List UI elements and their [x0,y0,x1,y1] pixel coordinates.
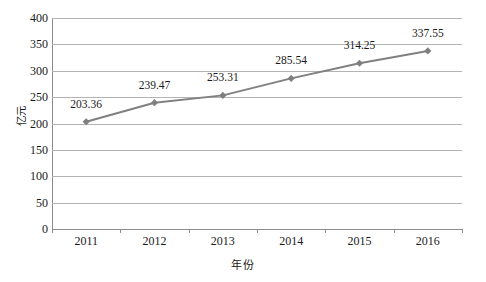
data-label-2014: 285.54 [275,54,307,66]
data-label-2011: 203.36 [70,98,102,110]
data-point-marker-2011 [83,118,90,125]
data-point-marker-2016 [424,47,431,54]
data-point-marker-2015 [356,60,363,67]
data-label-2012: 239.47 [139,79,171,91]
data-point-marker-2012 [151,99,158,106]
data-point-marker-2014 [288,75,295,82]
series-line [86,51,428,122]
line-chart: 亿元 400350300250200150100500 201120122013… [0,0,486,282]
series-line-group [0,0,486,282]
data-label-2013: 253.31 [207,71,239,83]
data-label-2015: 314.25 [344,39,376,51]
data-label-2016: 337.55 [412,27,444,39]
data-point-marker-2013 [219,92,226,99]
